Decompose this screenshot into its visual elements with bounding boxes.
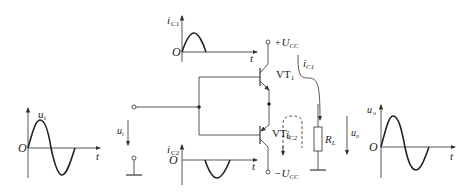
- svg-text:O: O: [172, 45, 181, 59]
- vcc-pos-label: +UCC: [274, 36, 299, 50]
- output-waveform: u o O t: [367, 104, 455, 178]
- ic1-waveform: i C1 O t: [167, 14, 257, 64]
- origin-label: O: [18, 141, 27, 155]
- svg-text:i: i: [167, 14, 170, 26]
- vt1-label: VT1: [276, 68, 295, 82]
- svg-text:o: o: [373, 110, 376, 116]
- input-waveform: u i O t: [18, 108, 100, 178]
- svg-text:O: O: [369, 140, 378, 154]
- svg-text:C1: C1: [171, 20, 180, 28]
- svg-text:i: i: [44, 114, 46, 122]
- uo-label: uo: [351, 127, 359, 139]
- vcc-pos-terminal: [266, 40, 270, 44]
- ui-label: ui: [117, 125, 124, 137]
- xlabel: t: [96, 150, 100, 162]
- vcc-neg-terminal: [266, 170, 270, 174]
- svg-text:u: u: [367, 104, 372, 115]
- svg-text:O: O: [169, 153, 178, 167]
- circuit: [126, 40, 347, 175]
- junction-dot: [197, 105, 201, 109]
- ic2-waveform: i C2 O t: [167, 143, 257, 185]
- half-wave-negative: [205, 160, 230, 178]
- ic1-label: iC1: [303, 57, 314, 71]
- load-label: RL: [324, 133, 336, 147]
- svg-text:t: t: [252, 160, 256, 172]
- half-wave-positive: [182, 33, 206, 52]
- load-resistor: [314, 127, 322, 151]
- svg-text:t: t: [250, 52, 254, 64]
- sine-curve: [28, 120, 75, 175]
- output-junction-dot: [267, 102, 271, 106]
- input-terminal: [132, 105, 136, 109]
- ic2-label: iC2: [286, 128, 298, 142]
- vcc-neg-label: −UCC: [274, 167, 299, 181]
- svg-text:t: t: [450, 150, 454, 162]
- circuit-diagram: u i O t i C1 O t i C2 O t: [0, 0, 468, 193]
